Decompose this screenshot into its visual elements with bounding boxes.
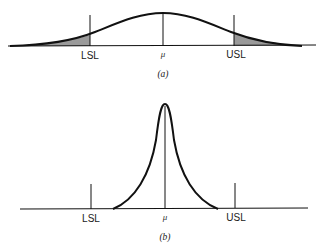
panel-b: LSL μ USL (b) <box>20 104 308 243</box>
mean-label-b: μ <box>162 212 168 222</box>
usl-label-b: USL <box>226 212 246 223</box>
baseline-b <box>20 208 308 209</box>
normal-curve-wide <box>10 13 302 46</box>
panel-a: LSL μ USL (a) <box>8 13 316 80</box>
lsl-label-b: LSL <box>82 213 100 224</box>
usl-label-a: USL <box>226 49 246 60</box>
upper-tail-shade <box>234 33 300 46</box>
mean-label-a: μ <box>160 49 166 59</box>
caption-a: (a) <box>157 69 168 80</box>
caption-b: (b) <box>159 232 170 243</box>
process-capability-diagram: LSL μ USL (a) LSL μ USL (b) <box>0 0 325 251</box>
lsl-label-a: LSL <box>81 50 99 61</box>
